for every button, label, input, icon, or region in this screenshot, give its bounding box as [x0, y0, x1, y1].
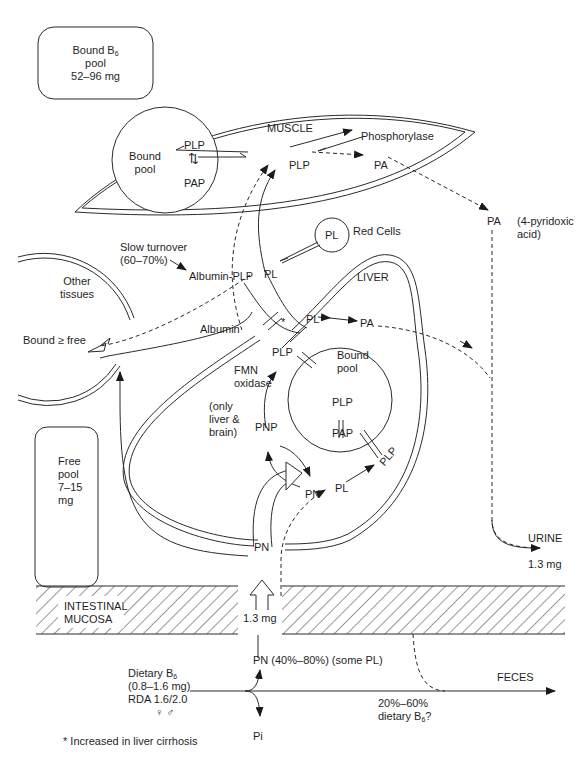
feces-note: 20%–60% dietary B6? [378, 697, 431, 723]
liver-pa: PA [360, 317, 374, 330]
footnote: * Increased in liver cirrhosis [63, 735, 198, 748]
only-liver-brain-note: (onlyliver &brain) [209, 400, 240, 439]
intestinal-mucosa-label: INTESTINALMUCOSA [64, 600, 128, 626]
muscle-pap: PAP [184, 177, 205, 190]
asterisk: * [281, 316, 285, 329]
phosphorylase-label: Phosphorylase [361, 130, 434, 143]
blood-pl: PL [264, 268, 277, 281]
slow-turnover-label: Slow turnover(60–70%) [120, 241, 187, 267]
dietary-b6-label: Dietary B6 (0.8–1.6 mg) RDA 1.6/2.0 ♀ ♂ [128, 667, 190, 719]
liver-pl: PL [306, 313, 319, 326]
feces-label: FECES [497, 671, 534, 684]
liver-plp: PLP [272, 346, 293, 359]
albumin-plp-label: Albumin-PLP [189, 270, 253, 283]
pnp-label: PNP [255, 421, 278, 434]
equilibrium-icon: ⇅ [188, 152, 199, 165]
muscle-pa: PA [374, 159, 388, 172]
liver-inner-plp: PLP [332, 396, 353, 409]
liver-pn: PN [305, 488, 320, 501]
muscle-plp-center: PLP [289, 159, 310, 172]
liver-label: LIVER [357, 271, 389, 284]
absorbed-pn: PN [254, 541, 269, 554]
pa-note: (4-pyridoxicacid) [517, 215, 574, 241]
dietary-pn-label: PN (40%–80%) (some PL) [253, 654, 383, 667]
other-tissues-label: Othertissues [47, 275, 107, 301]
absorbed-amount: 1.3 mg [243, 612, 277, 625]
bound-free-label: Bound ≥ free [23, 334, 86, 347]
fmn-oxidase-label: FMNoxidase [234, 364, 272, 390]
free-pool-box [35, 427, 98, 587]
muscle-label: MUSCLE [267, 122, 313, 135]
liver-pl2: PL [335, 482, 348, 495]
urine-amount: 1.3 mg [528, 558, 562, 571]
bound-b6-pool-label: Bound B6 pool 52–96 mg [38, 44, 153, 83]
pi-label: Pi [253, 730, 263, 743]
muscle-bound-pool-label: Boundpool [125, 150, 165, 176]
blood-pa: PA [487, 215, 501, 228]
red-cells-label: Red Cells [353, 225, 401, 238]
free-pool-label: Free pool 7–15 mg [58, 455, 82, 507]
liver-bound-pool-label: Boundpool [337, 349, 369, 375]
red-cell-pl: PL [325, 229, 338, 242]
albumin-label: Albumin [200, 323, 240, 336]
liver-inner-pap: PAP [332, 427, 353, 440]
urine-label: URINE [528, 532, 562, 545]
diagram-canvas [0, 0, 588, 757]
